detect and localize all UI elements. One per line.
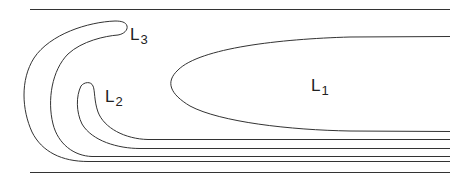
label-L3: L3 xyxy=(130,26,148,46)
channel-diagram xyxy=(0,0,474,182)
region-L2-curve xyxy=(77,83,450,149)
label-L1: L1 xyxy=(311,77,329,97)
label-L2: L2 xyxy=(105,88,123,108)
region-L3-curve xyxy=(24,21,450,162)
